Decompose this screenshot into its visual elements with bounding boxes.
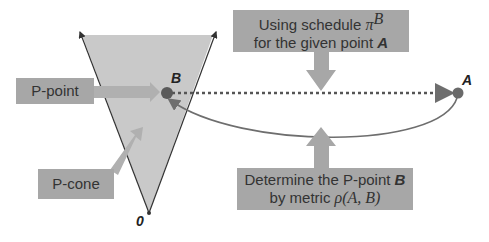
- label-a: A: [462, 72, 472, 88]
- p-point-text: P-point: [31, 82, 79, 100]
- schedule-arrow: [306, 52, 336, 91]
- origin-dot: [147, 211, 151, 215]
- p-cone-box: P-cone: [38, 169, 114, 199]
- point-b: [161, 87, 173, 99]
- schedule-line-1: Using schedule πB: [259, 10, 384, 34]
- schedule-box: Using schedule πB for the given point A: [233, 10, 409, 52]
- label-b: B: [171, 70, 181, 86]
- p-cone-text: P-cone: [52, 175, 100, 193]
- determine-line-2: by metric ρ(A, B): [270, 189, 381, 207]
- schedule-line-2: for the given point A: [254, 34, 388, 52]
- determine-box: Determine the P-point B by metric ρ(A, B…: [237, 168, 413, 210]
- point-a: [453, 88, 464, 99]
- metric-curve-a-to-b: [170, 98, 457, 137]
- determine-line-1: Determine the P-point B: [245, 171, 406, 189]
- p-point-box: P-point: [16, 78, 94, 104]
- determine-arrow: [306, 127, 336, 169]
- label-origin: 0: [136, 213, 144, 229]
